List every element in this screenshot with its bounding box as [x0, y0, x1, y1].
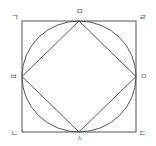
- outer-square: [22, 21, 136, 132]
- geometry-figure: [0, 0, 156, 146]
- inner-rhombus: [22, 21, 136, 132]
- label-bottom-mid: ㅅ: [76, 135, 83, 143]
- label-bottom-left: ㄴ: [11, 130, 18, 138]
- label-top-mid: ㅁ: [76, 8, 83, 16]
- label-bottom-right: ㄷ: [139, 130, 146, 138]
- label-top-left: ㄱ: [11, 14, 18, 22]
- label-right-mid: ㅇ: [140, 73, 147, 81]
- label-top-right: ㄹ: [139, 14, 146, 22]
- label-left-mid: ㅂ: [10, 73, 17, 81]
- inscribed-circle: [22, 21, 136, 132]
